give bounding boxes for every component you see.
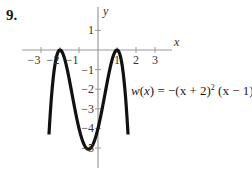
formula-exp1: 2 bbox=[211, 83, 215, 92]
x-tick-label: 3 bbox=[152, 53, 158, 67]
formula-term2: (x − 1) bbox=[218, 83, 252, 98]
y-tick-label: 1 bbox=[88, 23, 94, 37]
x-tick-label: −1 bbox=[66, 53, 79, 67]
function-var: x bbox=[144, 83, 150, 98]
y-tick-label: −3 bbox=[81, 102, 94, 116]
formula-eq: = −( bbox=[157, 83, 179, 98]
formula-term1: x + 2) bbox=[180, 83, 211, 98]
x-tick-label: 1 bbox=[114, 53, 120, 67]
y-tick-label: −5 bbox=[81, 141, 94, 155]
y-tick-label: −2 bbox=[81, 82, 94, 96]
function-formula: w(x) = −(x + 2)2 (x − 1)2 bbox=[131, 83, 252, 99]
y-tick-label: −1 bbox=[81, 63, 94, 77]
y-axis-label: y bbox=[102, 4, 109, 18]
x-tick-label: 2 bbox=[133, 53, 139, 67]
function-name: w bbox=[131, 83, 140, 98]
x-tick-label: −3 bbox=[28, 53, 41, 67]
x-tick-label: −2 bbox=[47, 53, 60, 67]
x-axis-label: x bbox=[173, 35, 180, 49]
y-tick-label: −4 bbox=[81, 121, 94, 135]
